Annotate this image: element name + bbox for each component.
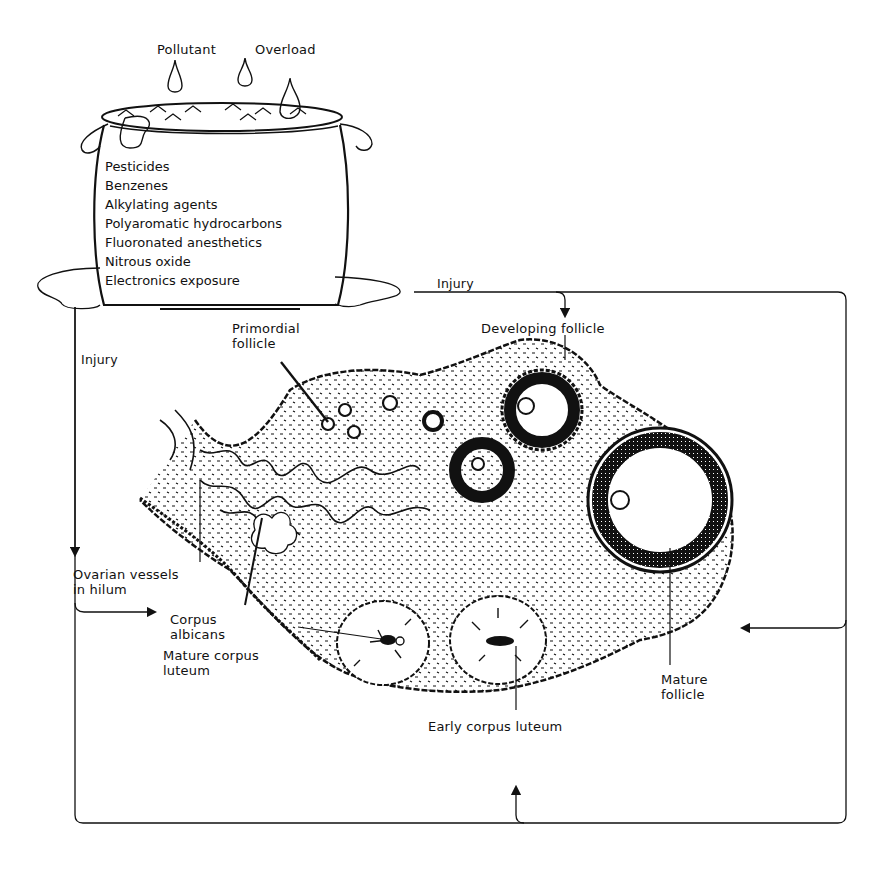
pollutant-item: Nitrous oxide [105, 252, 282, 271]
pollutant-title-label: Pollutant [157, 42, 216, 57]
mature-corpus-luteum-label-line1: Mature corpus [163, 648, 259, 663]
corpus-albicans-label-line2: albicans [170, 627, 225, 642]
mature-follicle-label-line1: Mature [661, 672, 708, 687]
overload-title-label: Overload [255, 42, 316, 57]
pollutant-item: Electronics exposure [105, 271, 282, 290]
early-corpus-luteum-label: Early corpus luteum [428, 719, 562, 734]
injury-left-label: Injury [81, 352, 118, 367]
pollutant-item: Pesticides [105, 157, 282, 176]
ovarian-vessels-label-line1: Ovarian vessels [73, 567, 179, 582]
pollutant-item: Benzenes [105, 176, 282, 195]
injury-top-label: Injury [437, 276, 474, 291]
corpus-albicans-label-line1: Corpus [170, 612, 217, 627]
ovary-pollutant-diagram: Pollutant Overload Pesticides Benzenes A… [0, 0, 885, 872]
pollutant-item: Polyaromatic hydrocarbons [105, 214, 282, 233]
pollutant-list: Pesticides Benzenes Alkylating agents Po… [105, 157, 282, 290]
developing-follicle-label: Developing follicle [481, 321, 605, 336]
ovary-illustration [140, 339, 733, 691]
pollutant-item: Alkylating agents [105, 195, 282, 214]
pollutant-item: Fluoronated anesthetics [105, 233, 282, 252]
mature-follicle-label-line2: follicle [661, 687, 705, 702]
primordial-follicle-label-line2: follicle [232, 336, 276, 351]
ovarian-vessels-label-line2: in hilum [73, 582, 127, 597]
mature-corpus-luteum-label-line2: luteum [163, 663, 210, 678]
diagram-drawing [0, 0, 885, 872]
primordial-follicle-label-line1: Primordial [232, 321, 300, 336]
